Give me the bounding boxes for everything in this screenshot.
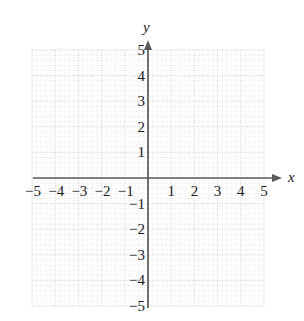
y-tick-label: 2 bbox=[138, 119, 146, 134]
y-tick-label: 4 bbox=[138, 68, 146, 83]
y-tick-label: −5 bbox=[129, 299, 145, 314]
x-axis-label: x bbox=[288, 170, 295, 185]
x-tick-label: −4 bbox=[48, 184, 64, 199]
x-tick-label: −5 bbox=[25, 184, 41, 199]
y-tick-label: −4 bbox=[129, 273, 145, 288]
coordinate-grid-figure: x y −5−4−3−2−112345 54321−1−2−3−4−5 bbox=[0, 0, 304, 321]
y-axis-arrowhead bbox=[144, 40, 152, 50]
x-tick-label: −2 bbox=[95, 184, 111, 199]
x-axis-arrowhead bbox=[272, 174, 282, 182]
y-tick-label: −1 bbox=[129, 196, 145, 211]
y-tick-label: 5 bbox=[138, 43, 146, 58]
y-axis-label: y bbox=[143, 20, 150, 35]
y-tick-label: 3 bbox=[138, 94, 146, 109]
y-tick-label: −2 bbox=[129, 222, 145, 237]
y-tick-label: 1 bbox=[138, 145, 146, 160]
x-tick-label: −3 bbox=[71, 184, 87, 199]
x-tick-label: 4 bbox=[237, 184, 245, 199]
x-tick-label: 1 bbox=[167, 184, 175, 199]
axes-group bbox=[33, 40, 282, 308]
x-tick-label: 2 bbox=[191, 184, 199, 199]
plot-canvas bbox=[0, 0, 304, 321]
x-tick-label: 3 bbox=[214, 184, 222, 199]
x-tick-label: 5 bbox=[260, 184, 268, 199]
y-tick-label: −3 bbox=[129, 247, 145, 262]
